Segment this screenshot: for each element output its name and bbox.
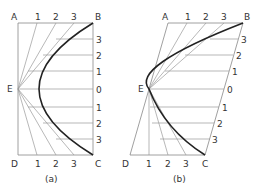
panel-b-right-0: 0 xyxy=(227,85,233,95)
panel-a-right-1-upper: 1 xyxy=(96,67,102,77)
panel-b-label-C: C xyxy=(202,159,208,169)
panel-a-horizontal-lines xyxy=(18,39,93,139)
panel-a-label-A: A xyxy=(11,12,18,22)
panel-a-caption: (a) xyxy=(45,174,58,184)
panel-b-bottom-3: 3 xyxy=(183,159,189,169)
panel-b-label-E: E xyxy=(138,84,144,94)
panel-a-label-E: E xyxy=(7,84,13,94)
panel-b-label-B: B xyxy=(244,12,250,22)
panel-b: A B C D E 1 2 3 3 2 1 0 1 2 3 1 2 3 (b) xyxy=(122,12,250,184)
panel-a: A B C D E 1 2 3 3 2 1 0 1 2 3 1 2 3 (a) xyxy=(7,12,102,184)
panel-a-right-2-lower: 2 xyxy=(96,119,102,129)
panel-b-right-2-upper: 2 xyxy=(236,51,242,61)
panel-b-bottom-1: 1 xyxy=(146,159,152,169)
panel-b-right-1-lower: 1 xyxy=(222,103,228,113)
panel-a-bottom-1: 1 xyxy=(35,159,41,169)
panel-b-top-2: 2 xyxy=(203,12,209,22)
panel-a-bottom-3: 3 xyxy=(71,159,77,169)
panel-b-horizontal-lines xyxy=(149,39,238,139)
panel-b-top-1: 1 xyxy=(185,12,191,22)
panel-b-bottom-2: 2 xyxy=(165,159,171,169)
panel-a-right-1-lower: 1 xyxy=(96,103,102,113)
panel-a-bottom-2: 2 xyxy=(53,159,59,169)
panel-b-caption: (b) xyxy=(173,174,186,184)
panel-a-label-C: C xyxy=(95,159,101,169)
panel-a-top-2: 2 xyxy=(53,12,59,22)
panel-b-right-1-upper: 1 xyxy=(232,67,238,77)
panel-a-right-2-upper: 2 xyxy=(96,51,102,61)
panel-a-label-B: B xyxy=(95,12,101,22)
panel-a-label-D: D xyxy=(11,159,18,169)
parabola-construction-diagram: A B C D E 1 2 3 3 2 1 0 1 2 3 1 2 3 (a) xyxy=(0,0,262,192)
panel-b-top-3: 3 xyxy=(221,12,227,22)
panel-a-right-3-upper: 3 xyxy=(96,35,102,45)
panel-a-top-1: 1 xyxy=(35,12,41,22)
panel-b-label-A: A xyxy=(162,12,169,22)
panel-a-top-3: 3 xyxy=(71,12,77,22)
panel-b-right-3-upper: 3 xyxy=(241,35,247,45)
panel-b-label-D: D xyxy=(122,159,129,169)
panel-b-right-2-lower: 2 xyxy=(217,119,223,129)
panel-b-right-3-lower: 3 xyxy=(212,135,218,145)
panel-a-right-3-lower: 3 xyxy=(96,135,102,145)
panel-a-right-0: 0 xyxy=(96,85,102,95)
